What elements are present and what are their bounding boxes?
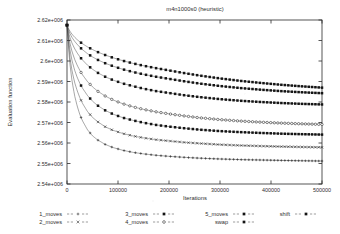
y-tick-label: 2.59e+006 (37, 79, 63, 85)
chart-figure: m4n1000s0 (heuristic) 010000020000030000… (0, 0, 340, 234)
y-tick-label: 2.57e+006 (37, 120, 63, 126)
x-tick-label: 0 (66, 187, 69, 193)
y-tick-label: 2.56e+006 (37, 140, 63, 146)
y-tick-label: 2.58e+006 (37, 99, 63, 105)
evaluation-function-line-chart: m4n1000s0 (heuristic) 010000020000030000… (0, 0, 340, 234)
legend-label: swap (215, 219, 228, 225)
x-tick-label: 100000 (109, 187, 127, 193)
legend-label: 4_moves (125, 219, 148, 225)
legend-label: 5_moves (205, 211, 228, 217)
x-tick-label: 400000 (262, 187, 280, 193)
chart-background (0, 0, 340, 234)
y-tick-label: 2.55e+006 (37, 161, 63, 167)
y-tick-label: 2.62e+006 (37, 17, 63, 23)
x-tick-label: 500000 (313, 187, 331, 193)
legend-label: 2_moves (39, 219, 62, 225)
y-tick-label: 2.54e+006 (37, 181, 63, 187)
legend-label: shift (280, 211, 291, 217)
y-tick-label: 2.61e+006 (37, 38, 63, 44)
legend-label: 1_moves (39, 211, 62, 217)
x-axis-label: Iterations (183, 195, 207, 201)
y-axis-label: Evaluation function (7, 78, 13, 127)
legend-label: 3_moves (125, 211, 148, 217)
chart-title: m4n1000s0 (heuristic) (166, 6, 223, 12)
y-tick-label: 2.6e+006 (40, 58, 63, 64)
x-tick-label: 300000 (211, 187, 229, 193)
x-tick-label: 200000 (160, 187, 178, 193)
